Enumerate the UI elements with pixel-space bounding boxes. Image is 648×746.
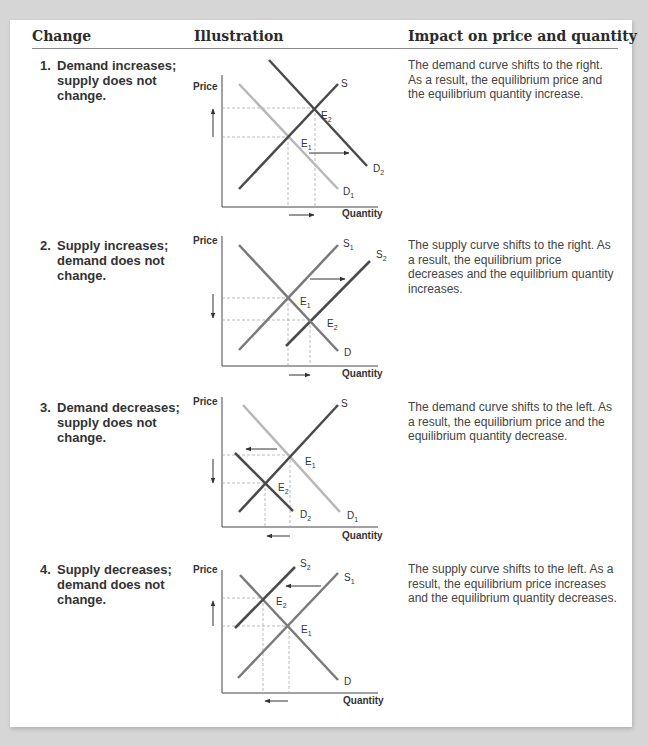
chart-4-guides bbox=[222, 598, 289, 693]
chart-4-axes bbox=[222, 570, 378, 693]
chart-3-quantity-label: Quantity bbox=[342, 530, 383, 541]
chart-3-price-label: Price bbox=[193, 396, 218, 407]
chart-4-label-d: D bbox=[344, 676, 351, 687]
chart-1-quantity-label: Quantity bbox=[342, 208, 383, 219]
chart-3-label-d2: D2 bbox=[300, 509, 311, 522]
chart-3-label-e1: E1 bbox=[305, 456, 316, 469]
supply-demand-diagrams: Price Quantity S D1 D2 E2 E1 Price Quant… bbox=[0, 0, 648, 746]
chart-3-curve-s bbox=[239, 405, 338, 512]
chart-2-label-e1: E1 bbox=[300, 296, 311, 309]
chart-1-label-d1: D1 bbox=[343, 186, 354, 199]
chart-4-quantity-label: Quantity bbox=[343, 695, 384, 706]
chart-2-label-s1: S1 bbox=[343, 238, 354, 251]
chart-3-label-s: S bbox=[341, 398, 348, 409]
chart-1-price-label: Price bbox=[193, 81, 218, 92]
chart-2-curve-s2 bbox=[286, 261, 370, 346]
chart-2-quantity-label: Quantity bbox=[342, 368, 383, 379]
chart-3-label-d1: D1 bbox=[347, 510, 358, 523]
chart-4-curve-s2 bbox=[235, 567, 295, 628]
chart-4-label-s2: S2 bbox=[300, 558, 311, 571]
chart-1-label-s: S bbox=[341, 78, 348, 89]
chart-4-label-e2: E2 bbox=[276, 596, 287, 609]
chart-3-curve-d1 bbox=[243, 405, 340, 512]
chart-2-label-e2: E2 bbox=[327, 318, 338, 331]
chart-3-label-e2: E2 bbox=[278, 482, 289, 495]
chart-4-price-label: Price bbox=[193, 564, 218, 575]
chart-1-curve-d2 bbox=[269, 60, 367, 166]
chart-2-price-label: Price bbox=[193, 235, 218, 246]
chart-4-label-e1: E1 bbox=[301, 624, 312, 637]
chart-4-curve-d bbox=[240, 575, 338, 680]
chart-1-label-e1: E1 bbox=[301, 138, 312, 151]
chart-1-demand-increase: Price Quantity S D1 D2 E2 E1 bbox=[193, 60, 384, 219]
chart-4-supply-decrease: Price Quantity S2 S1 D E2 E1 bbox=[193, 558, 384, 706]
chart-2-supply-increase: Price Quantity S1 S2 D E1 E2 bbox=[193, 235, 387, 379]
chart-1-label-d2: D2 bbox=[373, 163, 384, 176]
chart-2-label-s2: S2 bbox=[376, 249, 387, 262]
chart-4-label-s1: S1 bbox=[344, 572, 355, 585]
chart-2-label-d: D bbox=[344, 347, 351, 358]
chart-3-demand-decrease: Price Quantity S D1 D2 E1 E2 bbox=[193, 396, 383, 541]
